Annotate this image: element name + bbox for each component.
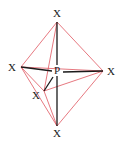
ligand-label-right: X [107, 65, 115, 77]
molecular-geometry-diagram: P X X X X X [0, 0, 121, 144]
ligand-label-top: X [53, 7, 61, 19]
bonds [21, 22, 103, 126]
ligand-label-front: X [32, 89, 40, 101]
center-atom-label: P [54, 64, 60, 76]
polyhedron-edges [21, 22, 103, 126]
ligand-label-left: X [8, 61, 16, 73]
bond-equatorial-right [63, 71, 103, 72]
ligand-label-bottom: X [53, 127, 61, 139]
